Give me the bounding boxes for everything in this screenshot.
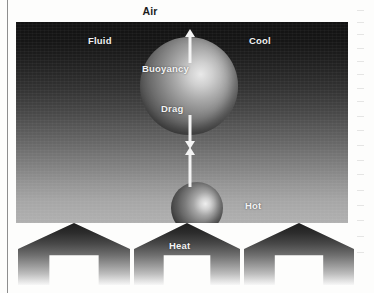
cool-label: Cool	[249, 35, 271, 46]
air-label-text: Air	[142, 5, 157, 17]
drag-label: Drag	[161, 103, 183, 114]
small-fluid-parcel-sphere	[171, 182, 223, 223]
heat-label: Heat	[169, 240, 190, 251]
hot-label: Hot	[245, 200, 261, 211]
drag-arrow-icon	[183, 115, 197, 149]
heat-arrow-icon	[18, 223, 130, 285]
buoyancy-label: Buoyancy	[142, 63, 189, 74]
fluid-gradient-panel: Fluid Cool Hot Buoyancy Drag	[16, 22, 348, 223]
fluid-label: Fluid	[88, 35, 112, 46]
heat-source-zone: Heat	[0, 223, 374, 293]
rise-arrow-icon	[183, 147, 197, 187]
air-label: Air	[0, 5, 374, 17]
heat-arrow-icon	[244, 223, 354, 285]
buoyancy-arrow-icon	[183, 29, 197, 63]
heat-arrow-icon	[134, 223, 240, 285]
buoyancy-convection-figure: Air Fluid Cool Hot Buoyancy Drag Heat	[0, 0, 374, 293]
